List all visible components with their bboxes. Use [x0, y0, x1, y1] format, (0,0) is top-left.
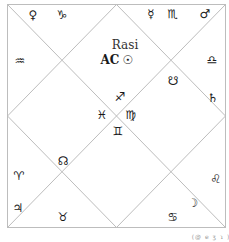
virgo-icon: ♍ [126, 109, 137, 121]
mars-icon: ♂ [200, 8, 211, 20]
sagittarius-icon: ♐ [115, 91, 126, 103]
ascendant-label: AC [101, 54, 120, 66]
mercury-icon: ☿ [147, 8, 154, 20]
venus-icon: ♀ [29, 9, 38, 21]
pisces-icon: ♓ [97, 109, 108, 121]
capricorn-icon: ♑ [57, 9, 68, 21]
taurus-icon: ♉ [58, 211, 69, 223]
rahu-icon: ☊ [58, 155, 69, 167]
jupiter-icon: ♃ [13, 202, 24, 214]
sun-icon: ☉ [123, 54, 134, 66]
moon-icon: ☽ [188, 197, 199, 209]
chart-caption: (@ e ʒ ɿ ) [192, 234, 229, 240]
chart-title: Rasi [112, 39, 138, 51]
scorpio-icon: ♏ [168, 8, 179, 20]
aries-icon: ♈ [14, 170, 25, 182]
gemini-icon: ♊ [113, 125, 124, 137]
ketu-icon: ☋ [168, 75, 179, 87]
leo-icon: ♌ [211, 173, 222, 185]
saturn-icon: ♄ [208, 92, 219, 104]
aquarius-icon: ♒ [15, 55, 26, 67]
cancer-icon: ♋ [168, 211, 179, 223]
libra-icon: ♎ [207, 54, 218, 66]
